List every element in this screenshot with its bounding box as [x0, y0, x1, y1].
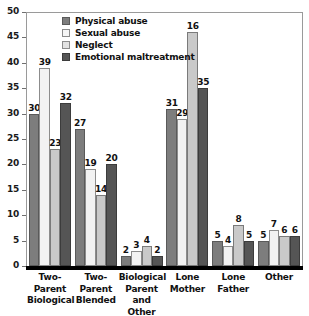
bar-chart: 05101520253035404550 3039233227191420234…: [0, 0, 309, 316]
bar-value-label: 8: [225, 214, 251, 224]
x-axis-category-label: LoneFather: [210, 272, 256, 295]
legend-swatch-icon: [62, 53, 70, 61]
y-axis-tick-label: 15: [7, 184, 19, 195]
x-axis-category-label: Other: [256, 272, 302, 284]
bar: [258, 241, 269, 266]
legend-item-label: Emotional maltreatment: [75, 52, 195, 62]
legend-item-sexual-abuse: Sexual abuse: [62, 27, 202, 38]
legend-swatch-icon: [62, 29, 70, 37]
x-axis-category-line: and Other: [119, 295, 165, 316]
y-axis-tick-mark: [22, 12, 26, 13]
x-axis-category-line: Other: [256, 272, 302, 284]
legend-item-label: Physical abuse: [75, 16, 148, 26]
x-axis-category-line: Father: [210, 284, 256, 296]
y-axis-tick-label: 40: [7, 57, 19, 68]
bar: [223, 246, 234, 266]
legend-item-label: Neglect: [75, 40, 113, 50]
bar: [187, 32, 198, 266]
y-axis-tick-label: 0: [13, 260, 19, 271]
y-axis-tick-label: 5: [13, 235, 19, 246]
y-axis-tick-label: 35: [7, 82, 19, 93]
x-axis-category-line: Parent: [73, 284, 119, 296]
x-axis-category-label: BiologicalParentand Other: [119, 272, 165, 316]
bar: [50, 149, 61, 266]
y-axis-tick-mark: [22, 241, 26, 242]
x-axis-labels: Two-ParentBiologicalTwo-ParentBlendedBio…: [27, 272, 302, 316]
bar-value-label: 6: [282, 225, 308, 235]
bar: [75, 129, 86, 266]
legend-swatch-icon: [62, 41, 70, 49]
bar: [121, 256, 132, 266]
y-axis-tick-mark: [22, 190, 26, 191]
bar-value-label: 4: [134, 235, 160, 245]
bar-value-label: 31: [159, 98, 185, 108]
bar: [39, 68, 50, 266]
legend-item-label: Sexual abuse: [75, 28, 140, 38]
legend-swatch-icon: [62, 17, 70, 25]
bar: [166, 109, 177, 266]
x-axis-baseline: [26, 266, 303, 270]
y-axis-tick-label: 20: [7, 158, 19, 169]
y-axis-tick-label: 50: [7, 6, 19, 17]
bar-value-label: 39: [32, 57, 58, 67]
x-axis-category-label: Two-ParentBlended: [73, 272, 119, 307]
bar: [152, 256, 163, 266]
x-axis-category-line: Parent: [27, 284, 73, 296]
legend-item-physical-abuse: Physical abuse: [62, 15, 202, 26]
bar-group: 5485: [210, 12, 256, 266]
x-axis-category-line: Two-: [73, 272, 119, 284]
x-axis-category-label: Two-ParentBiological: [27, 272, 73, 307]
x-axis-category-label: LoneMother: [165, 272, 211, 295]
bar: [177, 119, 188, 266]
bar: [279, 236, 290, 266]
x-axis-category-line: Blended: [73, 295, 119, 307]
y-axis-tick-mark: [22, 37, 26, 38]
bar: [244, 241, 255, 266]
bar: [96, 195, 107, 266]
x-axis-category-line: Biological: [27, 295, 73, 307]
y-axis-tick-label: 45: [7, 31, 19, 42]
x-axis-category-line: Parent: [119, 284, 165, 296]
y-axis-tick-mark: [22, 114, 26, 115]
legend-item-neglect: Neglect: [62, 39, 202, 50]
y-axis-tick-label: 25: [7, 133, 19, 144]
x-axis-category-line: Mother: [165, 284, 211, 296]
bar: [29, 114, 40, 266]
y-axis-tick-mark: [22, 88, 26, 89]
y-axis: 05101520253035404550: [0, 12, 26, 266]
y-axis-tick-mark: [22, 215, 26, 216]
y-axis-tick-mark: [22, 164, 26, 165]
y-axis-tick-label: 30: [7, 108, 19, 119]
x-axis-category-line: Lone: [165, 272, 211, 284]
bar: [269, 230, 280, 266]
bar-group: 5766: [256, 12, 302, 266]
chart-legend: Physical abuse Sexual abuse Neglect Emot…: [62, 15, 202, 63]
legend-item-emotional-maltreatment: Emotional maltreatment: [62, 51, 202, 62]
x-axis-category-line: Lone: [210, 272, 256, 284]
x-axis-category-line: Two-: [27, 272, 73, 284]
x-axis-category-line: Biological: [119, 272, 165, 284]
y-axis-tick-label: 10: [7, 209, 19, 220]
bar-value-label: 27: [67, 118, 93, 128]
bar: [290, 236, 301, 266]
bar: [131, 251, 142, 266]
y-axis-tick-mark: [22, 139, 26, 140]
y-axis-tick-mark: [22, 63, 26, 64]
